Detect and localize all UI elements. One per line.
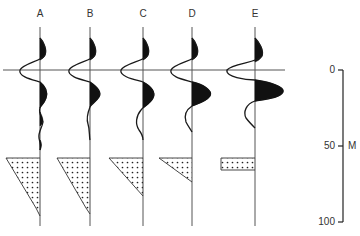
- scale-tick-100: 100: [318, 216, 335, 227]
- scale-tick-0: 0: [329, 64, 335, 75]
- wedge-b: [57, 158, 90, 214]
- wedge-d: [159, 158, 192, 182]
- trace-b: [57, 27, 100, 226]
- depth-scale-bar: 0 50 100 M: [318, 64, 356, 227]
- scale-unit-label: M: [348, 140, 356, 151]
- trace-label-e: E: [252, 8, 259, 19]
- trace-d: [159, 27, 211, 226]
- trace-label-c: C: [139, 8, 146, 19]
- wedge-a: [6, 158, 40, 216]
- trace-label-d: D: [188, 8, 195, 19]
- wedge-model-figure: A B C D E: [0, 0, 360, 236]
- wedge-c: [109, 158, 143, 196]
- wedge-e: [221, 158, 255, 170]
- trace-label-b: B: [87, 8, 94, 19]
- scale-tick-50: 50: [324, 140, 336, 151]
- trace-a: [6, 27, 47, 226]
- trace-e: [221, 27, 283, 226]
- trace-label-a: A: [37, 8, 44, 19]
- trace-c: [109, 27, 154, 226]
